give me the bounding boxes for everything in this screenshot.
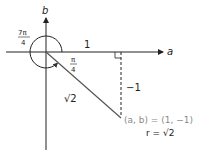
angle-pi-4-numerator: π — [71, 56, 76, 64]
angle-pi-4-denominator: 4 — [71, 66, 76, 74]
right-angle-marker — [115, 52, 121, 58]
a-axis-label: a — [167, 46, 173, 57]
radius-line — [46, 52, 121, 118]
horizontal-length-label: 1 — [84, 39, 90, 50]
vertical-length-label: −1 — [126, 82, 141, 93]
b-axis-label: b — [42, 5, 48, 16]
polar-coordinates-diagram: b a 7π 4 π 4 1 −1 √2 (a, b) = (1, −1) r … — [0, 0, 210, 153]
hypotenuse-length-label: √2 — [64, 93, 77, 104]
angle-7pi-4-denominator: 4 — [21, 39, 26, 47]
point-coordinates-label: (a, b) = (1, −1) — [124, 115, 193, 125]
radius-value-label: r = √2 — [146, 128, 174, 138]
angle-7pi-4-numerator: 7π — [18, 29, 27, 37]
